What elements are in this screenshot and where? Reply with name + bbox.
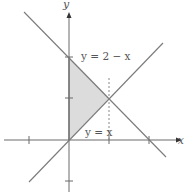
curve-label-y-2-minus-x: y = 2 − x [80, 50, 131, 62]
y-axis-arrow-icon [67, 12, 72, 18]
y-axis-label: y [62, 0, 70, 11]
x-axis-label: x [178, 134, 185, 147]
line-y-equals-x [29, 43, 163, 182]
region-diagram: x y y = 2 − x y = x [0, 0, 187, 194]
curve-label-y-x: y = x [84, 126, 112, 138]
